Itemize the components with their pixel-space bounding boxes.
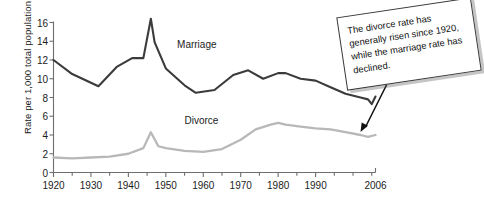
y-axis-tick-label: 16 xyxy=(24,17,48,28)
x-axis-tick-label: 1930 xyxy=(80,180,102,191)
y-axis-tick-label: 6 xyxy=(24,111,48,122)
x-axis-tick-label: 2006 xyxy=(364,180,386,191)
y-axis-tick-label: 2 xyxy=(24,148,48,159)
y-axis-tick-label: 4 xyxy=(24,130,48,141)
y-axis-tick-label: 12 xyxy=(24,55,48,66)
y-axis-tick-label: 10 xyxy=(24,73,48,84)
x-axis-tick-label: 1940 xyxy=(117,180,139,191)
y-axis-tick-label: 0 xyxy=(24,167,48,178)
chart-figure: Rate per 1,000 total population 02468101… xyxy=(0,0,484,203)
y-axis-tick-label: 8 xyxy=(24,92,48,103)
x-axis-tick-label: 1980 xyxy=(267,180,289,191)
x-axis-tick-label: 1920 xyxy=(42,180,64,191)
series-line-marriage xyxy=(54,19,376,104)
x-axis-tick-label: 1970 xyxy=(230,180,252,191)
annotation-callout-text: The divorce rate has generally risen sin… xyxy=(347,7,472,77)
x-axis-tick-label: 1960 xyxy=(192,180,214,191)
x-axis-tick-label: 1950 xyxy=(155,180,177,191)
series-line-divorce xyxy=(54,123,376,159)
series-label-marriage: Marriage xyxy=(177,39,216,50)
y-axis-tick-label: 14 xyxy=(24,36,48,47)
x-axis-tick-label: 1990 xyxy=(304,180,326,191)
series-label-divorce: Divorce xyxy=(185,115,219,126)
